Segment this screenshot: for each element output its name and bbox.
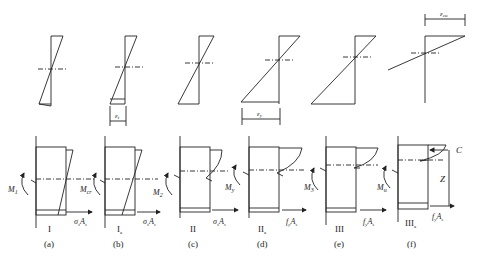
strain-e <box>311 36 376 104</box>
strain-f <box>388 14 465 103</box>
stress-d <box>234 136 306 218</box>
strain-label-b: εt <box>115 112 120 120</box>
caption-f: (f) <box>407 239 416 249</box>
stage-b: Ia <box>117 224 123 235</box>
moment-a: M1 <box>7 185 18 195</box>
moment-d: My <box>224 183 235 193</box>
compression-label: C <box>456 145 463 155</box>
strain-a <box>38 36 67 106</box>
diagram-canvas: εt εy εcu M1 Mcr M2 My M3 Mu σsAs σsAs σ… <box>0 0 479 261</box>
stage-e: III <box>335 224 344 234</box>
stress-e <box>312 136 386 225</box>
force-a: σsAs <box>74 217 87 227</box>
force-e: fyAs <box>363 217 374 227</box>
stage-f: IIIa <box>405 218 417 229</box>
caption-d: (d) <box>257 239 268 249</box>
lever-arm-label: Z <box>440 174 446 184</box>
stage-d: IIa <box>258 224 267 235</box>
strain-label-d: εy <box>257 110 263 118</box>
stage-c: II <box>190 224 196 234</box>
force-c: σsAs <box>213 217 226 227</box>
stress-c <box>166 136 238 218</box>
strain-c <box>178 36 214 104</box>
strain-label-f: εcu <box>440 10 448 18</box>
caption-b: (b) <box>113 239 124 249</box>
caption-c: (c) <box>188 239 198 249</box>
moment-b: Mcr <box>79 185 92 195</box>
moment-e: M3 <box>303 183 314 193</box>
moment-c: M2 <box>152 188 163 198</box>
stress-b <box>94 136 160 228</box>
force-d: fyAs <box>286 217 297 227</box>
beam-stage-diagram: εt εy εcu M1 Mcr M2 My M3 Mu σsAs σsAs σ… <box>0 0 479 261</box>
stress-a <box>22 136 95 228</box>
caption-e: (e) <box>334 239 344 249</box>
force-b: σsAs <box>143 217 156 227</box>
strain-d <box>241 36 300 125</box>
force-f: fyAs <box>432 212 443 222</box>
moment-f: Mu <box>376 183 387 193</box>
stage-a: I <box>48 224 51 234</box>
caption-a: (a) <box>44 239 54 249</box>
